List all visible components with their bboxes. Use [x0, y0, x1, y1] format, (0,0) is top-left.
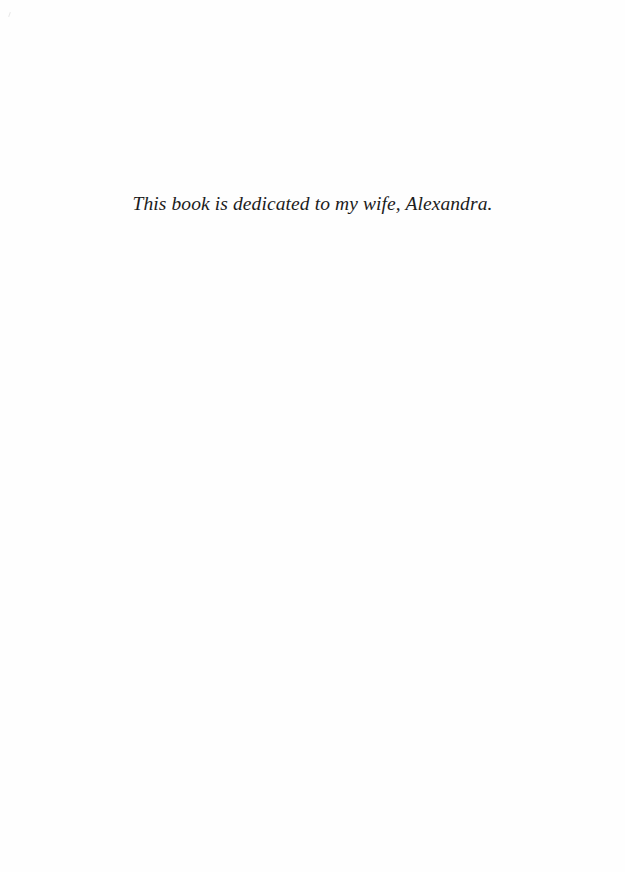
dedication-text: This book is dedicated to my wife, Alexa… [0, 193, 625, 215]
scan-artifact [8, 12, 11, 17]
book-page: This book is dedicated to my wife, Alexa… [0, 0, 625, 872]
